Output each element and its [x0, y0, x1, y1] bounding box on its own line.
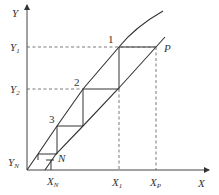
stage-3-label: 3: [49, 113, 55, 125]
xp-label: XP: [149, 176, 162, 190]
y1-label: Y1: [10, 41, 20, 55]
stage-2-label: 2: [74, 76, 80, 88]
x1-label: X1: [111, 176, 122, 190]
yn-label: YN: [8, 156, 19, 170]
point-p-label: P: [163, 42, 171, 54]
staircase-steps: [38, 47, 156, 160]
point-n-label: N: [57, 152, 66, 164]
staircase-diagram: Y X Y1 Y2 YN XN X1 XP 1 2 3 P N: [0, 0, 219, 195]
y-axis-label: Y: [12, 7, 20, 19]
y2-label: Y2: [10, 83, 20, 97]
stage-1-label: 1: [108, 33, 114, 45]
xn-label: XN: [46, 175, 59, 189]
x-axis-label: X: [197, 177, 206, 189]
equilibrium-curve: [27, 11, 163, 170]
operating-line: [45, 37, 165, 170]
